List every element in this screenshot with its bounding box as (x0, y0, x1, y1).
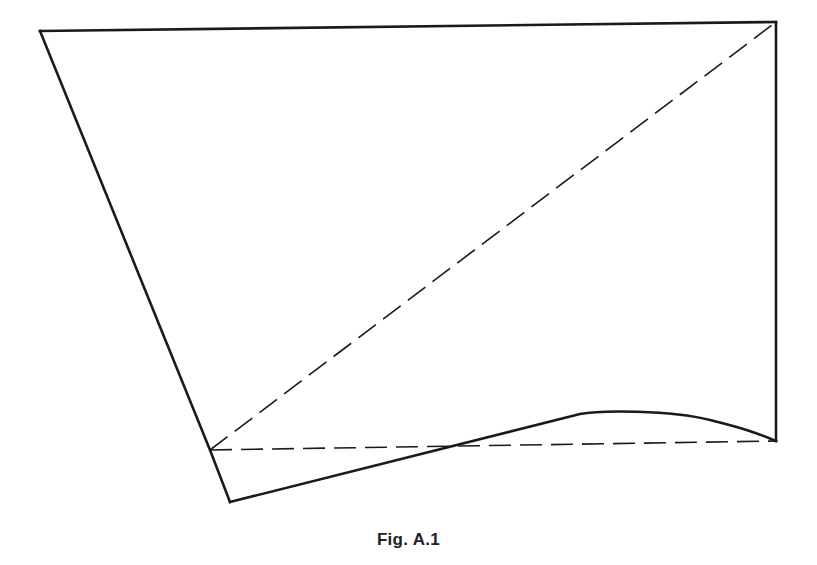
dashed-diagonal (210, 22, 776, 450)
bottom-curve (230, 412, 776, 502)
figure-caption: Fig. A.1 (0, 530, 817, 550)
left-edge (40, 31, 230, 502)
diagram-figure (0, 0, 817, 565)
dashed-baseline (210, 441, 776, 450)
figure-caption-text: Fig. A.1 (377, 530, 440, 549)
top-edge (40, 22, 776, 31)
